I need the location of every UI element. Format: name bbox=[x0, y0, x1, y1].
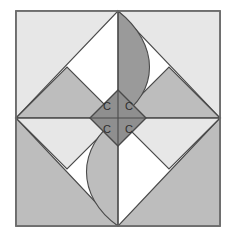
center-letter-top-left: C bbox=[103, 100, 111, 112]
center-letter-bottom-right: C bbox=[125, 123, 133, 135]
quilt-block-figure: CCCC bbox=[0, 0, 235, 239]
quilt-block-canvas: CCCC bbox=[0, 0, 235, 239]
center-letter-top-right: C bbox=[125, 100, 133, 112]
center-letter-bottom-left: C bbox=[103, 123, 111, 135]
